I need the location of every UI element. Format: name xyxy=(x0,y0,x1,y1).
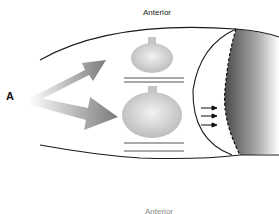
gradient-arrow-lower xyxy=(28,96,118,130)
gradient-arrow-upper xyxy=(30,60,106,103)
diagram-figure xyxy=(0,0,279,214)
bulb-small xyxy=(124,37,184,82)
small-arrows xyxy=(201,106,217,127)
shaded-region xyxy=(225,29,279,155)
bulb-large xyxy=(122,86,184,151)
